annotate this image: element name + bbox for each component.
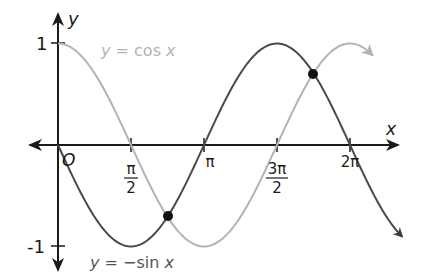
y-tick-label-1: 1 — [36, 33, 47, 54]
x-tick-label-3pi-half-num: 3π — [268, 160, 287, 178]
neg-sin-series-label: y = −sin x — [89, 253, 174, 272]
origin-label: O — [62, 150, 75, 170]
x-tick-label-pi-half-den: 2 — [126, 179, 136, 197]
x-tick-label-pi: π — [205, 153, 214, 171]
y-axis-label: y — [67, 8, 79, 29]
cos-series-label: y = cos x — [100, 41, 176, 60]
y-tick-label-neg1: -1 — [27, 236, 45, 257]
chart: y x O 1 -1 π 2 π 3π 2 2π y = cos x y = −… — [0, 0, 423, 277]
x-tick-label-2pi: 2π — [341, 153, 360, 171]
intersection-point — [163, 211, 173, 221]
x-axis-label: x — [385, 119, 397, 139]
x-tick-label-3pi-half-den: 2 — [272, 179, 282, 197]
intersection-point — [308, 69, 318, 79]
x-tick-label-pi-half-num: π — [126, 160, 135, 178]
